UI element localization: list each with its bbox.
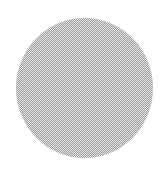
dithered-gray-circle: Gray dithered circle on white background — [16, 18, 153, 158]
circle-description: Gray dithered circle on white background — [16, 18, 17, 19]
